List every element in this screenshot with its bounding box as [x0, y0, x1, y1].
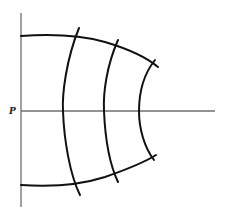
arc-3: [139, 60, 155, 160]
top-boundary-curve: [21, 35, 158, 67]
diagram-canvas: P: [0, 0, 227, 213]
bottom-boundary-curve: [21, 155, 156, 186]
point-label-p: P: [8, 106, 16, 116]
